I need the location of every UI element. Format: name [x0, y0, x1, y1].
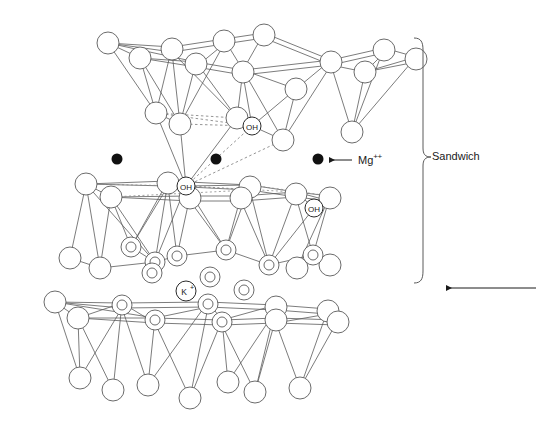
mg-ion-dot: [313, 154, 324, 165]
mg-ion-label: Mg++: [358, 153, 382, 166]
upper-sheet-oxygen-circles: [97, 24, 427, 151]
oh-label-text: OH: [246, 123, 258, 132]
sandwich-brace: [414, 38, 431, 283]
mg-ion-charge: ++: [373, 152, 381, 161]
lower-sheet-oxygen-circles: [44, 291, 349, 409]
k-charge-text: +: [190, 284, 194, 291]
diagram-canvas: OH OH OH K + Sandwich Mg++: [0, 0, 536, 434]
mg-ion-dot: [211, 154, 222, 165]
potassium-markers: K +: [176, 281, 196, 301]
oh-label-text: OH: [180, 183, 192, 192]
crystal-structure-svg: OH OH OH K +: [0, 0, 536, 434]
mg-ion-dots: [112, 154, 324, 165]
pointer-arrows: [329, 160, 536, 288]
k-label-text: K: [181, 287, 187, 297]
mg-ion-label-text: Mg: [358, 154, 373, 166]
middle-sheet-oxygen-circles: [59, 172, 341, 279]
mg-ion-dot: [112, 154, 123, 165]
oh-label-text: OH: [308, 205, 320, 214]
sandwich-label: Sandwich: [432, 151, 480, 162]
